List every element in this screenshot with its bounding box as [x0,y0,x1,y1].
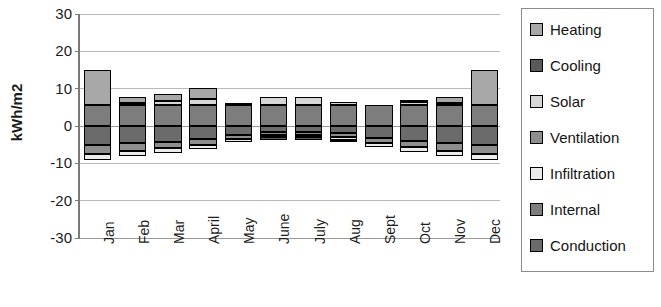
bar-segment [471,126,498,145]
bar-segment [154,142,181,149]
legend-swatch-icon [530,95,543,108]
legend-item-label: Solar [550,94,585,109]
bar-segment [295,105,322,126]
x-axis-tick-label: Oct [418,222,432,244]
bar-segment [119,126,146,143]
y-axis-tick [75,14,80,15]
y-axis-tick-label: 10 [32,81,72,96]
bar-segment [84,126,111,145]
x-axis-tick-label: June [277,214,291,244]
bar-column [154,14,181,238]
bar-column [365,14,392,238]
y-axis-tick-label: 0 [32,118,72,133]
bar-segment [225,105,252,126]
bar-segment [436,143,463,150]
bar-column [400,14,427,238]
x-axis-tick-label: Aug [348,219,362,244]
y-axis-tick [75,126,80,127]
legend-item[interactable]: Infiltration [530,163,615,183]
x-axis-tick-label: Sept [383,215,397,244]
x-axis-tick-label: Feb [137,220,151,244]
bar-segment [119,151,146,157]
y-axis-title: kWh/m2 [8,53,25,173]
bar-segment [119,97,146,103]
y-axis-tick [75,88,80,89]
legend-item[interactable]: Internal [530,199,600,219]
bar-segment [365,143,392,147]
bar-segment [260,97,287,105]
bar-segment [189,145,216,149]
bar-column [330,14,357,238]
bar-segment [436,151,463,157]
bar-segment [436,103,463,105]
bar-segment [330,102,357,105]
legend-swatch-icon [530,131,543,144]
x-axis-tick-label: Mar [172,220,186,244]
y-axis-tick-label: -10 [32,155,72,170]
bar-segment [84,105,111,126]
bar-segment [365,105,392,126]
y-axis-tick-label: 30 [32,6,72,21]
bar-segment [225,103,252,105]
bar-segment [189,88,216,99]
legend-swatch-icon [530,167,543,180]
chart-legend: HeatingCoolingSolarVentilationInfiltrati… [521,8,654,272]
bar-column [119,14,146,238]
bar-segment [471,154,498,160]
legend-item-label: Infiltration [550,166,615,181]
x-axis-tick-label: Dec [488,219,502,244]
bar-segment [400,126,427,141]
bar-segment [154,101,181,105]
x-axis-tick-labels: JanFebMarAprilMayJuneJulyAugSeptOctNovDe… [78,238,500,304]
bar-segment [471,70,498,105]
legend-item-label: Internal [550,202,600,217]
x-axis-tick-label: Nov [453,219,467,244]
bar-segment [400,105,427,126]
legend-item-label: Heating [550,22,602,37]
plot-inner [80,14,500,238]
bar-segment [400,147,427,151]
y-axis-tick [75,51,80,52]
legend-item[interactable]: Ventilation [530,127,619,147]
bar-segment [471,105,498,126]
bar-segment [260,137,287,140]
bar-segment [330,105,357,126]
plot-area [78,14,500,238]
bar-segment [84,154,111,160]
legend-item[interactable]: Conduction [530,235,626,255]
bar-segment [436,105,463,126]
bar-segment [154,105,181,126]
bar-segment [119,143,146,150]
bar-column [471,14,498,238]
bar-segment [330,140,357,142]
bar-segment [119,103,146,105]
legend-item-label: Ventilation [550,130,619,145]
energy-balance-chart: kWh/m2 3020100-10-20-30 JanFebMarAprilMa… [0,0,661,307]
y-axis-tick-label: -30 [32,230,72,245]
bar-segment [84,70,111,105]
legend-item[interactable]: Solar [530,91,585,111]
y-axis-tick-label: -20 [32,193,72,208]
bar-segment [189,126,216,139]
bar-column [260,14,287,238]
bar-segment [330,126,357,133]
legend-item[interactable]: Cooling [530,55,601,75]
x-axis-tick-label: May [242,218,256,244]
bar-segment [189,105,216,126]
bar-segment [189,99,216,105]
y-axis-tick [75,200,80,201]
bar-segment [84,145,111,153]
legend-item-label: Conduction [550,238,626,253]
bar-segment [400,100,427,102]
bar-segment [295,137,322,140]
legend-item[interactable]: Heating [530,19,602,39]
bar-segment [154,126,181,142]
bar-segment [436,97,463,103]
bar-segment [295,97,322,105]
legend-item-label: Cooling [550,58,601,73]
legend-swatch-icon [530,23,543,36]
y-axis-tick-labels: 3020100-10-20-30 [26,14,72,238]
bar-segment [400,102,427,105]
bar-segment [260,105,287,126]
bar-segment [471,145,498,153]
